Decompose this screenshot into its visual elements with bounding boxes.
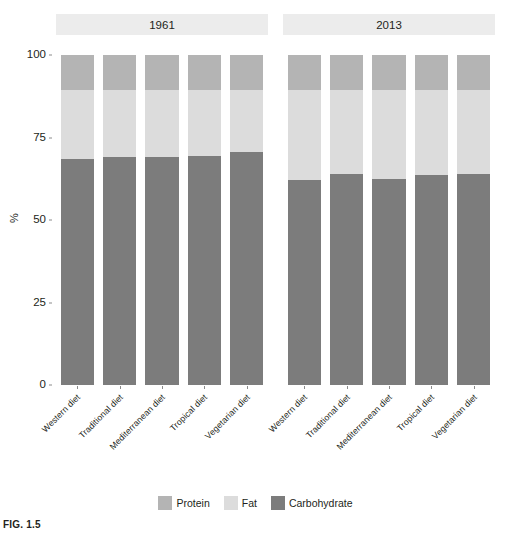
stacked-bar[interactable] xyxy=(103,55,136,385)
y-axis-tick-label: 25 xyxy=(33,297,46,309)
bar-segment-protein[interactable] xyxy=(415,55,448,90)
bar-segment-protein[interactable] xyxy=(188,55,221,90)
panel-plot-area xyxy=(283,41,495,399)
x-axis-tick-mark xyxy=(304,386,305,389)
x-axis-tick-mark xyxy=(389,386,390,389)
stacked-bar[interactable] xyxy=(372,55,405,385)
bar-segment-carbohydrate[interactable] xyxy=(372,179,405,385)
y-axis-tick-mark xyxy=(49,302,52,303)
legend-item: Protein xyxy=(158,496,209,510)
y-axis-tick-label: 0 xyxy=(40,379,46,391)
x-axis-tick-label: Vegetarian diet xyxy=(430,392,479,441)
x-axis-tick-mark xyxy=(77,386,78,389)
bar-segment-fat[interactable] xyxy=(188,90,221,156)
panel-title-label: 2013 xyxy=(376,19,402,31)
panel-title-strip: 1961 xyxy=(56,14,268,35)
bar-segment-fat[interactable] xyxy=(415,90,448,176)
bar-segment-carbohydrate[interactable] xyxy=(61,159,94,385)
panel-plot-area xyxy=(56,41,268,399)
stacked-bar[interactable] xyxy=(145,55,178,385)
figure-container: % 1007550250 19612013 Western dietTradit… xyxy=(0,0,519,537)
chart-legend: ProteinFatCarbohydrate xyxy=(0,494,519,512)
stacked-bar[interactable] xyxy=(288,55,321,385)
bar-segment-fat[interactable] xyxy=(372,90,405,179)
legend-swatch-icon xyxy=(224,496,238,510)
x-axis-tick-label: Vegetarian diet xyxy=(203,392,252,441)
bar-segment-fat[interactable] xyxy=(330,90,363,174)
bar-segment-protein[interactable] xyxy=(330,55,363,90)
bar-segment-protein[interactable] xyxy=(61,55,94,90)
bar-segment-carbohydrate[interactable] xyxy=(103,157,136,385)
y-axis-tick-label: 100 xyxy=(27,49,46,61)
legend-label: Fat xyxy=(242,497,257,509)
x-axis-tick-mark xyxy=(247,386,248,389)
legend-swatch-icon xyxy=(271,496,285,510)
legend-label: Protein xyxy=(176,497,209,509)
legend-swatch-icon xyxy=(158,496,172,510)
bar-segment-fat[interactable] xyxy=(103,90,136,158)
bar-segment-protein[interactable] xyxy=(230,55,263,90)
bar-segment-carbohydrate[interactable] xyxy=(188,156,221,385)
x-axis-tick-mark xyxy=(431,386,432,389)
x-axis-tick-mark xyxy=(204,386,205,389)
bar-segment-fat[interactable] xyxy=(145,90,178,158)
figure-caption: FIG. 1.5 xyxy=(3,519,41,530)
x-axis-tick-mark xyxy=(120,386,121,389)
bar-segment-carbohydrate[interactable] xyxy=(288,180,321,385)
bar-segment-fat[interactable] xyxy=(457,90,490,174)
y-axis-tick-mark xyxy=(49,385,52,386)
bar-segment-protein[interactable] xyxy=(372,55,405,90)
legend-item: Fat xyxy=(224,496,257,510)
y-axis: 1007550250 xyxy=(0,0,55,537)
y-axis-tick-mark xyxy=(49,55,52,56)
y-axis-tick-label: 75 xyxy=(33,132,46,144)
bar-segment-carbohydrate[interactable] xyxy=(330,174,363,385)
bar-segment-protein[interactable] xyxy=(457,55,490,90)
stacked-bar[interactable] xyxy=(230,55,263,385)
bar-segment-fat[interactable] xyxy=(230,90,263,153)
stacked-bar[interactable] xyxy=(61,55,94,385)
x-axis-tick-mark xyxy=(474,386,475,389)
y-axis-tick-label: 50 xyxy=(33,214,46,226)
bar-segment-protein[interactable] xyxy=(145,55,178,90)
panel-title-label: 1961 xyxy=(149,19,175,31)
legend-item: Carbohydrate xyxy=(271,496,353,510)
stacked-bar[interactable] xyxy=(330,55,363,385)
y-axis-tick-mark xyxy=(49,137,52,138)
stacked-bar[interactable] xyxy=(188,55,221,385)
panel-title-strip: 2013 xyxy=(283,14,495,35)
bar-segment-carbohydrate[interactable] xyxy=(415,175,448,385)
x-axis-tick-mark xyxy=(347,386,348,389)
bar-segment-carbohydrate[interactable] xyxy=(230,152,263,385)
stacked-bar[interactable] xyxy=(415,55,448,385)
bar-segment-protein[interactable] xyxy=(103,55,136,90)
bar-segment-protein[interactable] xyxy=(288,55,321,90)
y-axis-tick-mark xyxy=(49,220,52,221)
stacked-bar[interactable] xyxy=(457,55,490,385)
bar-segment-fat[interactable] xyxy=(61,90,94,159)
bar-segment-carbohydrate[interactable] xyxy=(457,174,490,385)
legend-label: Carbohydrate xyxy=(289,497,353,509)
bar-segment-carbohydrate[interactable] xyxy=(145,157,178,385)
bar-segment-fat[interactable] xyxy=(288,90,321,181)
x-axis-tick-mark xyxy=(162,386,163,389)
